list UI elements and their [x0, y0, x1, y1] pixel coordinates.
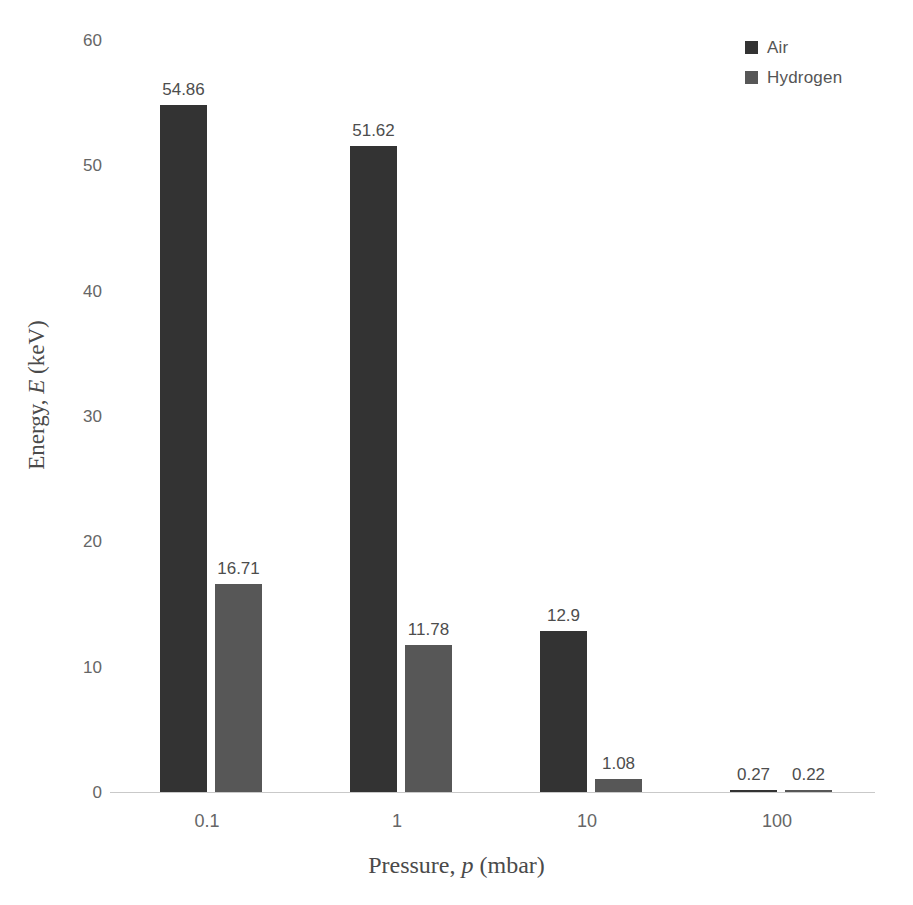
bar-chart: Air Hydrogen 0102030405060 Energy, E (ke… — [0, 0, 913, 905]
y-axis-title: Energy, E (keV) — [24, 280, 50, 510]
y-axis-title-suffix: (keV) — [24, 320, 49, 379]
y-axis-tick-40: 40 — [46, 282, 102, 299]
y-axis-tick-0: 0 — [46, 784, 102, 801]
y-axis-tick-labels: 0102030405060 — [46, 0, 102, 905]
bar-group-1: 51.6211.78 — [302, 40, 492, 793]
plot-area: 54.8616.7151.6211.7812.91.080.270.22 — [112, 40, 872, 793]
x-axis-title-suffix: (mbar) — [474, 852, 545, 878]
y-axis-tick-60: 60 — [46, 32, 102, 49]
y-axis-tick-30: 30 — [46, 408, 102, 425]
x-axis-tick-0.1: 0.1 — [194, 812, 219, 830]
x-axis-line — [110, 792, 875, 793]
y-axis-title-prefix: Energy, — [24, 394, 49, 470]
bar-air-10: 12.9 — [540, 631, 587, 793]
x-axis-tick-1: 1 — [392, 812, 402, 830]
bar-value-label: 0.22 — [792, 766, 825, 783]
bar-air-1: 51.62 — [350, 146, 397, 793]
bar-value-label: 1.08 — [602, 755, 635, 772]
x-axis-tick-100: 100 — [762, 812, 792, 830]
bar-value-label: 51.62 — [352, 122, 395, 139]
bar-group-100: 0.270.22 — [682, 40, 872, 793]
bar-group-10: 12.91.08 — [492, 40, 682, 793]
bar-air-0.1: 54.86 — [160, 105, 207, 793]
x-axis-title-prefix: Pressure, — [368, 852, 461, 878]
y-axis-title-variable: E — [24, 380, 49, 394]
bar-group-0.1: 54.8616.71 — [112, 40, 302, 793]
y-axis-tick-10: 10 — [46, 658, 102, 675]
y-axis-tick-20: 20 — [46, 533, 102, 550]
bar-value-label: 11.78 — [408, 621, 449, 638]
bar-value-label: 16.71 — [217, 560, 260, 577]
bar-value-label: 12.9 — [547, 607, 580, 624]
bar-value-label: 54.86 — [162, 81, 205, 98]
bar-hydrogen-10: 1.08 — [595, 779, 642, 793]
x-axis-tick-10: 10 — [577, 812, 597, 830]
x-axis-title: Pressure, p (mbar) — [0, 852, 913, 879]
bar-hydrogen-0.1: 16.71 — [215, 584, 262, 793]
x-axis-title-variable: p — [462, 852, 474, 878]
bar-hydrogen-1: 11.78 — [405, 645, 452, 793]
y-axis-tick-50: 50 — [46, 157, 102, 174]
bar-value-label: 0.27 — [737, 766, 770, 783]
